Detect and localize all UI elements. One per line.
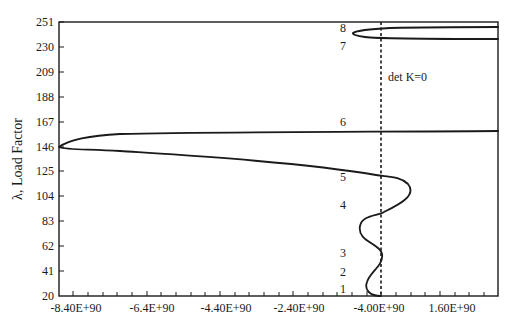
plot-frame <box>59 22 498 296</box>
point-label-5: 5 <box>340 170 346 184</box>
x-tick-label: -4.40E+90 <box>200 301 251 315</box>
point-label-2: 2 <box>340 265 346 279</box>
det-k-zero-label: det K=0 <box>388 70 427 84</box>
y-tick-label: 146 <box>36 140 54 154</box>
x-tick-label: -4.00E+90 <box>353 301 404 315</box>
y-tick-label: 62 <box>42 239 54 253</box>
y-tick-label: 167 <box>36 115 54 129</box>
x-tick-label: -6.4E+90 <box>129 301 174 315</box>
load-factor-curve <box>59 27 498 296</box>
point-label-3: 3 <box>340 246 346 260</box>
x-tick-label: -2.40E+90 <box>273 301 324 315</box>
y-tick-label: 209 <box>36 65 54 79</box>
point-label-7: 7 <box>340 39 346 53</box>
y-tick-label: 41 <box>42 264 54 278</box>
y-tick-label: 83 <box>42 214 54 228</box>
point-label-8: 8 <box>340 21 346 35</box>
point-labels: 1 2 3 4 5 6 7 8 <box>340 21 346 296</box>
x-tick-label: 1.60E+90 <box>428 301 475 315</box>
x-tick-labels: -8.40E+90 -6.4E+90 -4.40E+90 -2.40E+90 -… <box>50 301 475 315</box>
chart-canvas: 251 230 209 188 167 146 125 104 83 62 41… <box>0 0 515 330</box>
x-axis-ticks <box>73 291 484 296</box>
y-tick-label: 188 <box>36 90 54 104</box>
y-axis-title: λ, Load Factor <box>10 118 25 200</box>
y-tick-label: 104 <box>36 189 54 203</box>
y-tick-labels: 251 230 209 188 167 146 125 104 83 62 41… <box>36 15 54 303</box>
point-label-4: 4 <box>340 198 346 212</box>
y-tick-label: 251 <box>36 15 54 29</box>
point-label-1: 1 <box>340 282 346 296</box>
y-tick-label: 125 <box>36 164 54 178</box>
point-label-6: 6 <box>340 115 346 129</box>
x-tick-label: -8.40E+90 <box>50 301 101 315</box>
y-tick-label: 230 <box>36 40 54 54</box>
